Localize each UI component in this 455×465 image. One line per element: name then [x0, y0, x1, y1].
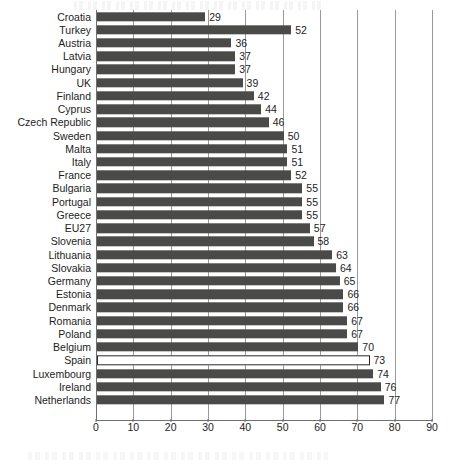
scan-artifact-top	[74, 1, 324, 10]
category-label: France	[58, 170, 91, 181]
bar	[97, 303, 343, 312]
category-label: Italy	[72, 157, 91, 168]
bar-row: Croatia29	[96, 10, 432, 23]
bar-row: Netherlands77	[96, 393, 432, 406]
x-tick-label: 0	[93, 422, 99, 433]
category-label: Netherlands	[34, 395, 91, 406]
bar-row: Turkey52	[96, 23, 432, 36]
category-label: Greece	[57, 210, 91, 221]
bar-value-label: 58	[314, 236, 330, 247]
x-tick-label: 80	[389, 422, 401, 433]
bar	[97, 38, 231, 47]
category-label: Estonia	[56, 289, 91, 300]
bar	[97, 290, 343, 299]
bar	[97, 52, 235, 61]
bar-row: Finland42	[96, 89, 432, 102]
bar-row: France52	[96, 169, 432, 182]
bar-value-label: 36	[231, 38, 247, 49]
category-label: EU27	[65, 223, 91, 234]
bar-row: Austria36	[96, 36, 432, 49]
bar-value-label: 66	[343, 289, 359, 300]
bar	[97, 237, 314, 246]
bar-value-label: 65	[340, 276, 356, 287]
bar-value-label: 55	[302, 183, 318, 194]
bar-row: UK39	[96, 76, 432, 89]
bar-value-label: 52	[291, 25, 307, 36]
x-tick-label: 10	[127, 422, 139, 433]
bar-value-label: 67	[347, 315, 363, 326]
bar	[97, 395, 384, 404]
gridline-90	[432, 10, 433, 420]
bar-value-label: 55	[302, 210, 318, 221]
bar	[97, 369, 373, 378]
bar	[97, 78, 243, 87]
category-label: Hungary	[51, 64, 91, 75]
category-label: Cyprus	[58, 104, 91, 115]
category-label: Austria	[58, 38, 91, 49]
category-label: Finland	[57, 91, 91, 102]
bar-value-label: 77	[384, 395, 400, 406]
category-label: Turkey	[59, 25, 91, 36]
x-axis-tick-labels: 0102030405060708090	[96, 422, 433, 438]
category-label: Malta	[65, 144, 91, 155]
category-label: Sweden	[53, 130, 91, 141]
bar	[97, 104, 261, 113]
bar-row: Ireland76	[96, 380, 432, 393]
bar-value-label: 63	[332, 249, 348, 260]
bar	[97, 263, 336, 272]
bar-row: Hungary37	[96, 63, 432, 76]
bar-row: Bulgaria55	[96, 182, 432, 195]
bar	[97, 197, 302, 206]
bar	[97, 250, 332, 259]
bar-row: Slovenia58	[96, 235, 432, 248]
category-label: Romania	[49, 315, 91, 326]
category-label: Spain	[64, 355, 91, 366]
bar-row: Malta51	[96, 142, 432, 155]
bar-value-label: 67	[347, 329, 363, 340]
x-tick-label: 70	[351, 422, 363, 433]
bar-row: Portugal55	[96, 195, 432, 208]
x-tick-label: 40	[239, 422, 251, 433]
bar-value-label: 44	[261, 104, 277, 115]
bar-row: Germany65	[96, 274, 432, 287]
bar	[97, 91, 254, 100]
bar-row: Cyprus44	[96, 103, 432, 116]
bar-row: Greece55	[96, 208, 432, 221]
bar	[97, 25, 291, 34]
bar-value-label: 39	[243, 77, 259, 88]
category-label: Belgium	[53, 342, 91, 353]
category-label: Croatia	[57, 11, 91, 22]
bar	[97, 12, 205, 21]
bar	[97, 276, 340, 285]
bar-value-label: 76	[381, 381, 397, 392]
category-label: Slovenia	[51, 236, 91, 247]
bar	[97, 65, 235, 74]
bar-row: Belgium70	[96, 340, 432, 353]
bar-row: Denmark66	[96, 301, 432, 314]
bar-row: Romania67	[96, 314, 432, 327]
bar-value-label: 29	[205, 11, 221, 22]
bar	[97, 210, 302, 219]
bar-value-label: 37	[235, 64, 251, 75]
bar-chart-figure: Croatia29Turkey52Austria36Latvia37Hungar…	[0, 0, 455, 465]
category-label: Denmark	[48, 302, 91, 313]
bar	[97, 382, 381, 391]
bar-row: Italy51	[96, 155, 432, 168]
bar-value-label: 52	[291, 170, 307, 181]
plot-area: Croatia29Turkey52Austria36Latvia37Hungar…	[96, 10, 432, 420]
category-label: Bulgaria	[52, 183, 91, 194]
bar-value-label: 55	[302, 196, 318, 207]
bar	[97, 157, 287, 166]
category-label: Lithuania	[48, 249, 91, 260]
bar-row: Latvia37	[96, 50, 432, 63]
bar-value-label: 51	[287, 157, 303, 168]
bar-value-label: 64	[336, 263, 352, 274]
bar-row: Poland67	[96, 327, 432, 340]
bar	[97, 144, 287, 153]
bar-value-label: 42	[254, 91, 270, 102]
bar	[97, 118, 269, 127]
bar-value-label: 46	[269, 117, 285, 128]
bar-row: Spain73	[96, 354, 432, 367]
category-label: UK	[76, 77, 91, 88]
bar-row: EU2757	[96, 222, 432, 235]
